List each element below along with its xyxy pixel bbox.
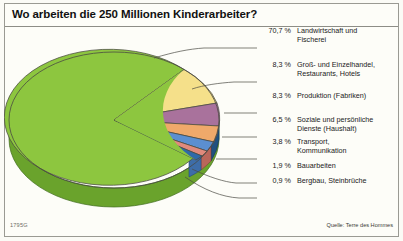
page-title: Wo arbeiten die 250 Millionen Kinderarbe… bbox=[12, 8, 257, 20]
legend-item-transport: 3,8 % Transport, Kommunikation bbox=[258, 138, 347, 155]
legend-label: Produktion (Fabriken) bbox=[297, 92, 366, 101]
legend-item-produktion: 8,3 % Produktion (Fabriken) bbox=[258, 92, 366, 101]
legend-label: Bauarbeiten bbox=[297, 162, 336, 171]
legend-pct: 1,9 % bbox=[258, 162, 291, 171]
legend-label: Bergbau, Steinbrüche bbox=[297, 177, 367, 186]
chart-legend: 70,7 % Landwirtschaft und Fischerei 8,3 … bbox=[258, 27, 400, 207]
legend-label: Landwirtschaft und Fischerei bbox=[297, 27, 357, 44]
legend-pct: 3,8 % bbox=[258, 138, 291, 147]
legend-item-soziale-dienste: 6,5 % Soziale und persönliche Dienste (H… bbox=[258, 116, 373, 133]
graphic-id-code: 1795G bbox=[10, 222, 28, 228]
legend-pct: 8,3 % bbox=[258, 92, 291, 101]
pie-top-face bbox=[4, 49, 219, 185]
legend-item-bergbau: 0,9 % Bergbau, Steinbrüche bbox=[258, 177, 367, 186]
infographic-frame: Wo arbeiten die 250 Millionen Kinderarbe… bbox=[0, 0, 403, 241]
legend-label: Transport, Kommunikation bbox=[297, 138, 347, 155]
legend-pct: 6,5 % bbox=[258, 116, 291, 125]
legend-item-bauarbeiten: 1,9 % Bauarbeiten bbox=[258, 162, 336, 171]
source-credit: Quelle: Terre des Hommes bbox=[327, 222, 393, 228]
legend-pct: 8,3 % bbox=[258, 61, 291, 70]
legend-pct: 70,7 % bbox=[258, 27, 291, 36]
legend-label: Groß- und Einzelhandel, Restaurants, Hot… bbox=[297, 61, 375, 78]
legend-label: Soziale und persönliche Dienste (Haushal… bbox=[297, 116, 373, 133]
legend-pct: 0,9 % bbox=[258, 177, 291, 186]
leader-landwirtschaft bbox=[154, 48, 257, 58]
pie-chart bbox=[4, 27, 260, 222]
legend-item-handel: 8,3 % Groß- und Einzelhandel, Restaurant… bbox=[258, 61, 375, 78]
legend-item-landwirtschaft: 70,7 % Landwirtschaft und Fischerei bbox=[258, 27, 357, 44]
